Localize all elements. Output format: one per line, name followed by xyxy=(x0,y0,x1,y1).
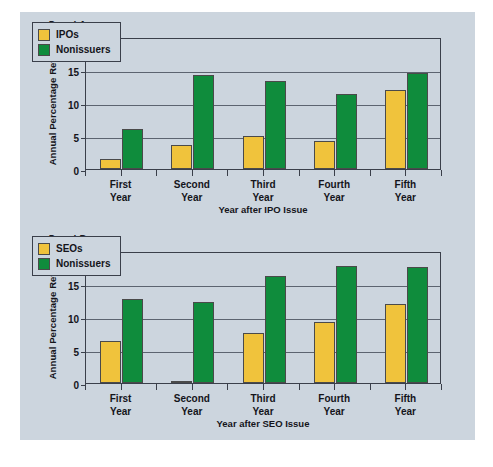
x-axis-tick-mark xyxy=(334,170,335,176)
bar-nonissuers xyxy=(407,267,428,383)
figure-panel-container: Panel A Annual Percentage Return 0510152… xyxy=(20,12,475,440)
bar-ipos xyxy=(314,141,335,169)
x-axis-tick-label: FifthYear xyxy=(370,179,440,204)
x-axis-tick-label: SecondYear xyxy=(157,393,227,418)
x-axis-tick-mark xyxy=(405,384,406,390)
legend-swatch-nonissuer-icon xyxy=(38,258,50,270)
bar-nonissuers xyxy=(193,75,214,169)
legend-item-seos: SEOs xyxy=(38,241,110,256)
x-axis-tick-mark xyxy=(227,170,228,176)
panel-b-x-axis-ticks: FirstYearSecondYearThirdYearFourthYearFi… xyxy=(85,384,441,390)
legend-item-nonissuers: Nonissuers xyxy=(38,42,110,57)
y-axis-tick-label: 10 xyxy=(68,314,79,325)
panel-b-x-axis-title: Year after SEO Issue xyxy=(85,418,441,429)
legend-swatch-issuer-icon xyxy=(38,29,50,41)
y-axis-tick-label: 15 xyxy=(68,67,79,78)
bar-seos xyxy=(243,333,264,383)
x-axis-tick-mark xyxy=(370,384,371,390)
legend-label-nonissuer: Nonissuers xyxy=(56,44,110,55)
panel-a: Panel A Annual Percentage Return 0510152… xyxy=(20,12,475,226)
x-axis-tick-mark xyxy=(370,170,371,176)
panel-a-legend: IPOs Nonissuers xyxy=(32,22,121,62)
panel-a-x-axis-ticks: FirstYearSecondYearThirdYearFourthYearFi… xyxy=(85,170,441,176)
y-axis-tick-label: 0 xyxy=(73,166,79,177)
x-axis-tick-mark xyxy=(227,384,228,390)
bar-ipos xyxy=(243,136,264,169)
legend-item-nonissuers: Nonissuers xyxy=(38,256,110,271)
bar-nonissuers xyxy=(336,266,357,383)
panel-a-x-axis-title: Year after IPO Issue xyxy=(85,204,441,215)
panel-a-plot-area: 05101520 xyxy=(85,38,441,170)
y-axis-tick-label: 0 xyxy=(73,380,79,391)
x-axis-tick-label: SecondYear xyxy=(157,179,227,204)
legend-item-ipos: IPOs xyxy=(38,27,110,42)
x-axis-tick-mark xyxy=(263,170,264,176)
panel-b-legend: SEOs Nonissuers xyxy=(32,236,121,276)
y-axis-tick-label: 15 xyxy=(68,281,79,292)
bar-ipos xyxy=(385,90,406,169)
y-axis-tick-mark xyxy=(81,138,86,139)
x-axis-tick-mark xyxy=(299,384,300,390)
y-axis-tick-label: 5 xyxy=(73,347,79,358)
x-axis-tick-mark xyxy=(192,384,193,390)
bar-group xyxy=(243,39,286,169)
y-axis-tick-mark xyxy=(81,352,86,353)
legend-label-issuer: IPOs xyxy=(56,29,79,40)
bar-seos xyxy=(100,341,121,383)
bar-nonissuers xyxy=(336,94,357,169)
x-axis-tick-mark xyxy=(85,170,86,176)
x-axis-tick-label: FirstYear xyxy=(86,393,156,418)
y-axis-tick-label: 10 xyxy=(68,100,79,111)
bar-nonissuers xyxy=(193,302,214,383)
bar-nonissuers xyxy=(265,276,286,383)
bar-seos xyxy=(314,322,335,383)
panel-b-plot-area: 05101520 xyxy=(85,252,441,384)
legend-swatch-nonissuer-icon xyxy=(38,44,50,56)
legend-swatch-issuer-icon xyxy=(38,243,50,255)
x-axis-tick-label: ThirdYear xyxy=(228,393,298,418)
bar-group xyxy=(314,39,357,169)
bar-nonissuers xyxy=(407,73,428,169)
x-axis-tick-label: FourthYear xyxy=(299,393,369,418)
x-axis-tick-mark xyxy=(156,384,157,390)
y-axis-tick-mark xyxy=(81,286,86,287)
x-axis-tick-mark xyxy=(334,384,335,390)
x-axis-tick-mark xyxy=(405,170,406,176)
x-axis-tick-mark xyxy=(441,170,442,176)
x-axis-tick-label: ThirdYear xyxy=(228,179,298,204)
y-axis-tick-label: 5 xyxy=(73,133,79,144)
y-axis-tick-mark xyxy=(81,319,86,320)
x-axis-tick-mark xyxy=(299,170,300,176)
x-axis-tick-mark xyxy=(121,384,122,390)
bar-nonissuers xyxy=(122,129,143,169)
y-axis-tick-mark xyxy=(81,105,86,106)
x-axis-tick-mark xyxy=(156,170,157,176)
x-axis-tick-mark xyxy=(192,170,193,176)
legend-label-nonissuer: Nonissuers xyxy=(56,258,110,269)
x-axis-tick-mark xyxy=(85,384,86,390)
x-axis-tick-label: FirstYear xyxy=(86,179,156,204)
bar-group xyxy=(243,253,286,383)
bar-seos xyxy=(385,304,406,383)
x-axis-tick-mark xyxy=(121,170,122,176)
bar-group xyxy=(385,39,428,169)
bar-seos xyxy=(171,381,192,383)
bar-group xyxy=(385,253,428,383)
bar-ipos xyxy=(100,159,121,169)
bar-ipos xyxy=(171,145,192,169)
panel-b: Panel B Annual Percentage Return 0510152… xyxy=(20,226,475,440)
x-axis-tick-mark xyxy=(441,384,442,390)
x-axis-tick-label: FifthYear xyxy=(370,393,440,418)
y-axis-tick-mark xyxy=(81,72,86,73)
x-axis-tick-mark xyxy=(263,384,264,390)
bar-nonissuers xyxy=(122,299,143,383)
x-axis-tick-label: FourthYear xyxy=(299,179,369,204)
bar-group xyxy=(314,253,357,383)
bar-group xyxy=(171,253,214,383)
bar-nonissuers xyxy=(265,81,286,169)
legend-label-issuer: SEOs xyxy=(56,243,83,254)
bar-group xyxy=(171,39,214,169)
